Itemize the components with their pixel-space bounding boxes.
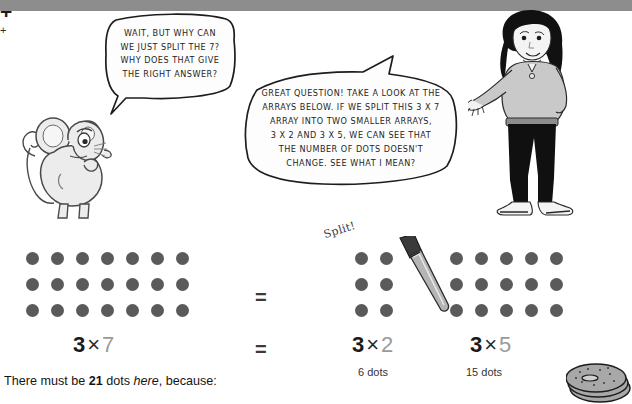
dot (355, 278, 368, 291)
caption-emphasis: here (134, 374, 159, 388)
bubble-line: CHANGE. SEE WHAT I MEAN? (243, 157, 459, 171)
caption-suffix: , because: (159, 374, 217, 388)
bubble-line: GREAT QUESTION! TAKE A LOOK AT THE (243, 87, 459, 101)
dot (550, 278, 563, 291)
dot (550, 304, 563, 317)
teacher-bubble-text: GREAT QUESTION! TAKE A LOOK AT THE ARRAY… (243, 68, 459, 170)
dot-count-label-6: 6 dots (358, 366, 388, 378)
caption-count: 21 (89, 374, 103, 388)
times-operator: × (482, 332, 499, 357)
dot (76, 278, 89, 291)
dot (151, 252, 164, 265)
factor-2: 2 (381, 332, 393, 357)
dot (51, 252, 64, 265)
dot (176, 252, 189, 265)
dot (525, 252, 538, 265)
dot (51, 278, 64, 291)
dot (525, 304, 538, 317)
bread-stack-illustration (566, 356, 632, 404)
dot (101, 278, 114, 291)
bubble-line: WAIT, BUT WHY CAN (104, 27, 236, 41)
dot (500, 304, 513, 317)
times-operator: × (364, 332, 381, 357)
dot (76, 252, 89, 265)
bubble-line: WHY DOES THAT GIVE (104, 54, 236, 68)
dot (500, 278, 513, 291)
times-operator: × (85, 332, 102, 357)
factor-1: 3 (470, 332, 482, 357)
caption-middle: dots (103, 374, 134, 388)
teacher-speech-bubble: GREAT QUESTION! TAKE A LOOK AT THE ARRAY… (243, 68, 459, 190)
dot (525, 278, 538, 291)
dot (500, 252, 513, 265)
caption-prefix: There must be (4, 374, 89, 388)
dot (550, 252, 563, 265)
dot (26, 304, 39, 317)
knife-icon (398, 236, 454, 318)
mouse-bubble-text: WAIT, BUT WHY CAN WE JUST SPLIT THE 7? W… (104, 14, 236, 81)
dot (51, 304, 64, 317)
dot (355, 304, 368, 317)
dot (101, 252, 114, 265)
factor-2: 5 (499, 332, 511, 357)
dot (26, 252, 39, 265)
factor-1: 3 (352, 332, 364, 357)
dot (126, 278, 139, 291)
bubble-line: 3 X 2 AND 3 X 5, WE CAN SEE THAT (243, 129, 459, 143)
caption-text: There must be 21 dots here, because: (4, 374, 217, 388)
bubble-line: THE NUMBER OF DOTS DOESN'T (243, 143, 459, 157)
dot (380, 252, 393, 265)
dot (76, 304, 89, 317)
array-3x5 (450, 252, 575, 330)
dot (26, 278, 39, 291)
factor-1: 3 (73, 332, 85, 357)
dot (176, 304, 189, 317)
split-annotation-label: Split! (322, 219, 357, 241)
dot (380, 304, 393, 317)
dot (176, 278, 189, 291)
equals-sign-expressions: = (255, 338, 267, 361)
dot (475, 252, 488, 265)
teacher-character-illustration (468, 8, 596, 222)
worksheet-page: WAIT, BUT WHY CAN WE JUST SPLIT THE 7? W… (0, 0, 632, 404)
bubble-line: THE RIGHT ANSWER? (104, 68, 236, 82)
mouse-character-illustration (8, 96, 130, 220)
dot (151, 278, 164, 291)
factor-2: 7 (102, 332, 114, 357)
dot (126, 304, 139, 317)
expression-3x2: 3×2 (352, 332, 393, 358)
dot (475, 278, 488, 291)
bubble-line: ARRAY INTO TWO SMALLER ARRAYS, (243, 115, 459, 129)
expression-3x5: 3×5 (470, 332, 511, 358)
bubble-line: WE JUST SPLIT THE 7? (104, 41, 236, 55)
dot (355, 252, 368, 265)
expression-3x7: 3×7 (73, 332, 114, 358)
bubble-line: ARRAYS BELOW. IF WE SPLIT THIS 3 X 7 (243, 101, 459, 115)
mouse-speech-bubble: WAIT, BUT WHY CAN WE JUST SPLIT THE 7? W… (104, 14, 236, 114)
dot (126, 252, 139, 265)
dot-count-label-15: 15 dots (466, 366, 502, 378)
dot (101, 304, 114, 317)
array-3x7 (26, 252, 201, 330)
dot (475, 304, 488, 317)
dot (380, 278, 393, 291)
equals-sign-arrays: = (255, 286, 267, 309)
dot (151, 304, 164, 317)
